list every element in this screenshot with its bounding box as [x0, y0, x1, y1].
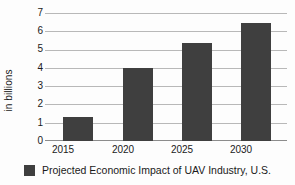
x-tick-label-2020: 2020	[101, 144, 145, 155]
y-axis-title-label: in billions	[3, 69, 14, 111]
legend-label: Projected Economic Impact of UAV Industr…	[42, 164, 271, 176]
y-tick-label-2: 2	[29, 99, 43, 109]
bar-2025[interactable]	[182, 43, 212, 141]
y-tick-label-6: 6	[29, 26, 43, 36]
y-tick-label-3: 3	[29, 81, 43, 91]
bar-2030[interactable]	[241, 23, 271, 141]
y-axis-title: in billions	[0, 50, 16, 130]
chart-legend: Projected Economic Impact of UAV Industr…	[0, 164, 295, 176]
plot-area	[45, 13, 287, 141]
legend-swatch-icon	[24, 165, 35, 176]
y-tick-label-4: 4	[29, 63, 43, 73]
y-tick-label-5: 5	[29, 44, 43, 54]
bar-chart: in billions 7 6 5 4 3 2 1 0 2015 2020 20…	[0, 0, 295, 185]
x-tick-label-2030: 2030	[219, 144, 263, 155]
y-tick-label-1: 1	[29, 118, 43, 128]
bars-layer	[45, 13, 287, 141]
x-tick-label-2025: 2025	[160, 144, 204, 155]
y-tick-label-7: 7	[29, 8, 43, 18]
x-tick-label-2015: 2015	[41, 144, 85, 155]
bar-2015[interactable]	[63, 117, 93, 141]
bar-2020[interactable]	[123, 68, 153, 141]
